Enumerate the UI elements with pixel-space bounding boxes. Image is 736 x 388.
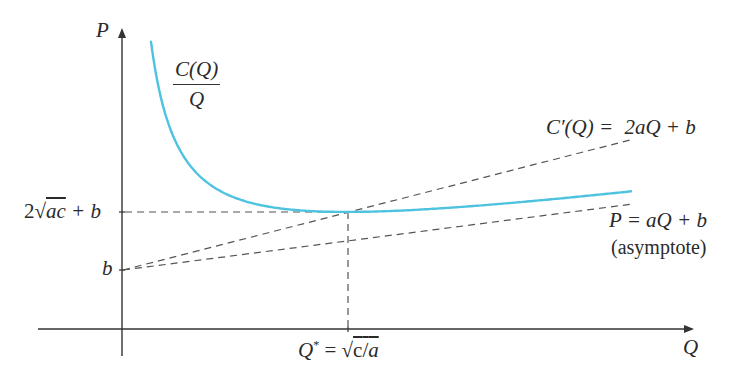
marginal-cost-rhs: 2aQ + b [624, 115, 695, 139]
x-axis-label: Q [683, 337, 698, 358]
diagram-canvas [0, 0, 736, 388]
q-star-radicand-a: a [368, 338, 379, 362]
average-cost-numerator: C(Q) [173, 57, 220, 85]
marginal-cost-line [123, 140, 630, 270]
intercept-b-label: b [102, 258, 113, 279]
min-value-prefix: 2 [24, 199, 35, 223]
min-value-label: 2√ac + b [24, 201, 101, 222]
y-axis-label: P [96, 20, 109, 41]
asymptote-sublabel: (asymptote) [611, 237, 707, 257]
asymptote-line [123, 204, 633, 270]
average-cost-diagram: P Q C(Q) Q C′(Q) = 2aQ + b P = aQ + b (a… [0, 0, 736, 388]
asymptote-label: P = aQ + b [609, 210, 707, 231]
average-cost-denominator: Q [189, 85, 204, 112]
q-star-label: Q* = √c/a [298, 339, 379, 361]
min-value-radicand: ac [46, 199, 66, 223]
q-star-radicand-c: c [353, 338, 362, 362]
min-value-suffix: + b [66, 199, 101, 223]
q-star-equals: = [319, 338, 341, 362]
average-cost-label: C(Q) Q [173, 57, 220, 112]
marginal-cost-label: C′(Q) = 2aQ + b [546, 117, 696, 138]
sqrt-icon: √ [35, 199, 47, 223]
sqrt-icon: √ [342, 338, 354, 362]
q-star-radicand: c/a [353, 338, 379, 362]
q-star-symbol: Q [298, 338, 313, 362]
marginal-cost-lhs: C′(Q) = [546, 115, 613, 139]
